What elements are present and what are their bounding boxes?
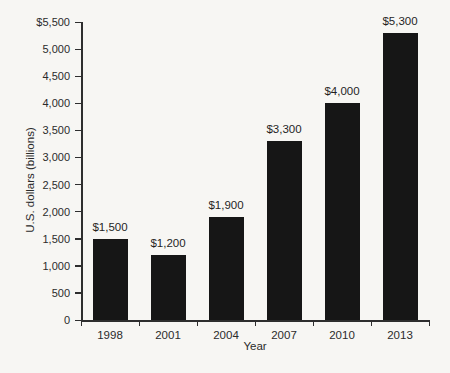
x-tick — [255, 320, 256, 326]
bar-2013 — [383, 33, 418, 320]
bar-chart-figure: U.S. dollars (billions) Year 05001,0001,… — [0, 0, 450, 373]
y-tick-label: 4,000 — [0, 97, 70, 109]
y-tick-label: 0 — [0, 314, 70, 326]
x-tick-label: 2013 — [387, 329, 413, 342]
x-tick-label: 1998 — [97, 329, 123, 342]
bar-2001 — [151, 255, 186, 320]
y-tick-label: 1,500 — [0, 233, 70, 245]
x-tick-label: 2010 — [329, 329, 355, 342]
y-tick-label: 500 — [0, 287, 70, 299]
y-tick-label: 2,500 — [0, 179, 70, 191]
y-tick-label: 5,000 — [0, 43, 70, 55]
bar-2010 — [325, 103, 360, 320]
y-tick-label: 4,500 — [0, 70, 70, 82]
bar-value-label: $1,900 — [208, 199, 243, 212]
y-tick — [75, 130, 81, 131]
y-tick-label: 3,500 — [0, 124, 70, 136]
bar-1998 — [93, 239, 128, 320]
y-tick — [75, 211, 81, 212]
y-axis-line — [81, 22, 83, 320]
x-tick — [371, 320, 372, 326]
y-tick-label: 2,000 — [0, 206, 70, 218]
x-tick-label: 2007 — [271, 329, 297, 342]
y-tick-label: 3,000 — [0, 151, 70, 163]
x-tick — [81, 320, 82, 326]
bar-2007 — [267, 141, 302, 320]
x-tick — [429, 320, 430, 326]
bar-value-label: $3,300 — [266, 123, 301, 136]
y-tick — [75, 49, 81, 50]
bar-value-label: $5,300 — [382, 15, 417, 28]
x-tick — [313, 320, 314, 326]
x-tick — [139, 320, 140, 326]
bar-value-label: $4,000 — [324, 85, 359, 98]
bar-value-label: $1,500 — [92, 221, 127, 234]
y-tick — [75, 184, 81, 185]
y-tick-label: 1,000 — [0, 260, 70, 272]
x-tick — [197, 320, 198, 326]
bar-value-label: $1,200 — [150, 237, 185, 250]
y-tick — [75, 265, 81, 266]
y-tick — [75, 76, 81, 77]
y-tick-label: $5,500 — [0, 16, 70, 28]
y-tick — [75, 292, 81, 293]
x-tick-label: 2004 — [213, 329, 239, 342]
y-tick — [75, 22, 81, 23]
x-tick-label: 2001 — [155, 329, 181, 342]
y-tick — [75, 238, 81, 239]
bar-2004 — [209, 217, 244, 320]
x-axis-title: Year — [243, 340, 266, 352]
y-tick — [75, 103, 81, 104]
y-tick — [75, 157, 81, 158]
